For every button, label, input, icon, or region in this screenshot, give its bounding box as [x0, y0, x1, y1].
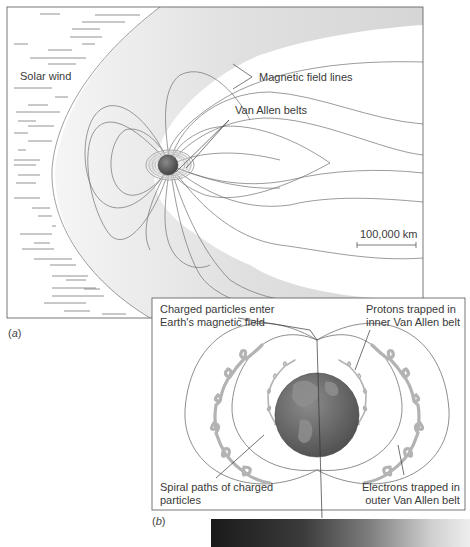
- caption-a: (a): [8, 327, 21, 339]
- label-charged-particles: Charged particles enter Earth's magnetic…: [160, 303, 274, 329]
- caption-b: (b): [152, 515, 165, 527]
- label-scale-bar: 100,000 km: [360, 228, 417, 241]
- label-spiral-paths: Spiral paths of charged particles: [160, 481, 273, 507]
- label-electrons-outer-belt: Electrons trapped in outer Van Allen bel…: [362, 481, 460, 507]
- label-protons-inner-belt: Protons trapped in inner Van Allen belt: [366, 303, 460, 329]
- label-magnetic-field-lines: Magnetic field lines: [259, 71, 353, 84]
- label-van-allen-belts: Van Allen belts: [235, 104, 307, 117]
- earth-large: [275, 373, 359, 457]
- earth-small: [158, 155, 178, 175]
- bottom-gradient-bar: [211, 519, 470, 547]
- label-solar-wind: Solar wind: [20, 70, 71, 83]
